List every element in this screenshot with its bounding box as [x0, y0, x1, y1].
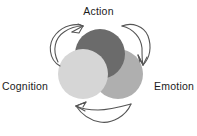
node-label-cognition: Cognition — [2, 80, 48, 92]
arrow-head — [76, 102, 86, 111]
circle-cognition — [58, 49, 108, 99]
diagram-canvas: Action Cognition Emotion — [0, 0, 197, 136]
venn-cycle-svg — [0, 0, 197, 136]
node-label-action: Action — [0, 5, 197, 17]
arrow-emotion-to-cognition — [76, 102, 131, 122]
node-label-emotion: Emotion — [154, 80, 194, 92]
arrow-shaft — [76, 104, 131, 122]
